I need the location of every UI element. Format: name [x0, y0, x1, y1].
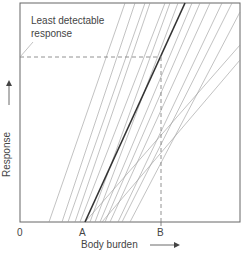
annotation-line1: Least detectable [31, 15, 104, 26]
x-tick-b: B [157, 227, 164, 238]
individual-response-lines [49, 3, 240, 222]
response-line [62, 3, 135, 222]
annotation-leader-line [20, 42, 33, 57]
x-tick-a: A [79, 227, 86, 238]
response-line [85, 45, 240, 222]
y-arrow-icon [6, 80, 12, 86]
x-axis-label: Body burden [81, 239, 138, 250]
y-axis-label: Response [1, 132, 12, 177]
annotation-line2: response [31, 28, 72, 39]
response-line [130, 12, 240, 222]
x-tick-0: 0 [17, 227, 23, 238]
response-line [95, 3, 178, 222]
x-arrow-icon [174, 242, 180, 248]
